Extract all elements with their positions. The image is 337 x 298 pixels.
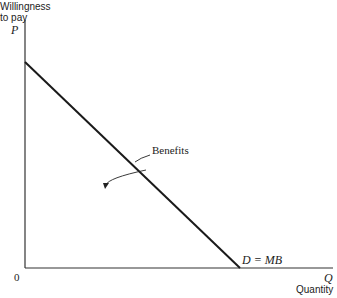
- demand-diagram: Willingness to pay P Benefits D = MB 0 Q…: [0, 0, 337, 298]
- arrowhead-icon: [103, 183, 109, 189]
- x-axis-title: Quantity: [296, 284, 333, 295]
- benefits-leader-line: [135, 155, 150, 162]
- origin-label: 0: [14, 271, 20, 283]
- y-axis-symbol: P: [10, 23, 19, 37]
- benefits-label: Benefits: [152, 144, 189, 156]
- curve-label: D = MB: [241, 253, 283, 267]
- demand-curve: [25, 62, 240, 268]
- y-axis-title-line2: to pay: [0, 12, 27, 23]
- y-axis-title-line1: Willingness: [0, 1, 51, 12]
- x-axis-symbol: Q: [324, 271, 333, 285]
